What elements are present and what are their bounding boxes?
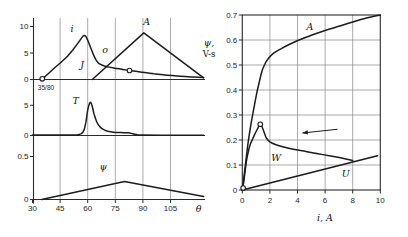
right-yaxis-label-line2: V-s [202, 49, 216, 59]
x-tick-label: 0 [240, 196, 245, 205]
curve-psi [42, 181, 204, 199]
point-marker [258, 122, 263, 127]
x-tick-label: 60 [83, 204, 92, 213]
y-tick-label: 0 [24, 195, 29, 204]
curve-i [42, 35, 204, 79]
point-marker [241, 186, 246, 191]
curve-U [242, 156, 377, 190]
curve-label-A: A [142, 16, 150, 27]
y-tick-label: 0.7 [226, 11, 238, 20]
y-tick-label: 5 [24, 101, 29, 110]
y-tick-label: 0.2 [226, 136, 238, 145]
point-marker [40, 77, 45, 82]
y-tick-label: 5 [24, 49, 29, 58]
figure-svg: 30456075901050510ioJA05T00.5ψ 024681000.… [0, 0, 408, 237]
x-tick-label: 105 [164, 204, 178, 213]
y-tick-label: 0.4 [226, 86, 238, 95]
curve-label-J: J [78, 59, 85, 70]
y-tick-label: 0.5 [17, 152, 29, 161]
curve-label-A: A [305, 21, 313, 32]
x-tick-label: 4 [295, 196, 300, 205]
y-tick-label: 0 [233, 186, 238, 195]
x-tick-label: 45 [56, 204, 65, 213]
curve-A [242, 15, 380, 190]
right-plot-border [242, 15, 380, 190]
x-tick-label: 6 [323, 196, 328, 205]
point-marker [127, 68, 132, 73]
y-tick-label: 10 [20, 22, 29, 31]
x-tick-label: 90 [138, 204, 147, 213]
figure: 30456075901050510ioJA05T00.5ψ 024681000.… [0, 0, 408, 237]
switch-angles-annotation: 35/80 [38, 84, 55, 91]
right-xaxis-label: i, A [317, 212, 333, 223]
y-tick-label: 0.5 [226, 61, 238, 70]
curve-T [33, 102, 204, 135]
left-panel: 30456075901050510ioJA05T00.5ψ [17, 16, 205, 213]
curve-label-i: i [71, 23, 74, 34]
right-panel: 024681000.10.20.30.40.50.60.7AWU [226, 11, 385, 205]
curve-label-ψ: ψ [100, 161, 108, 172]
x-tick-label: 8 [350, 196, 355, 205]
x-tick-label: 2 [268, 196, 273, 205]
y-tick-label: 0 [24, 75, 29, 84]
x-tick-label: 30 [28, 204, 37, 213]
y-tick-label: 0.6 [226, 36, 238, 45]
y-tick-label: 0.1 [226, 161, 238, 170]
curve-label-U: U [342, 168, 351, 179]
right-yaxis-label-line1: ψ, [204, 37, 214, 48]
curve-label-W: W [271, 152, 282, 163]
left-xaxis-symbol: θ [196, 203, 202, 214]
direction-arrow-head [302, 130, 308, 134]
x-tick-label: 10 [376, 196, 385, 205]
y-tick-label: 0 [24, 131, 29, 140]
curve-label-o: o [102, 44, 108, 55]
curve-label-T: T [73, 95, 80, 106]
x-tick-label: 75 [111, 204, 120, 213]
y-tick-label: 0.3 [226, 111, 238, 120]
